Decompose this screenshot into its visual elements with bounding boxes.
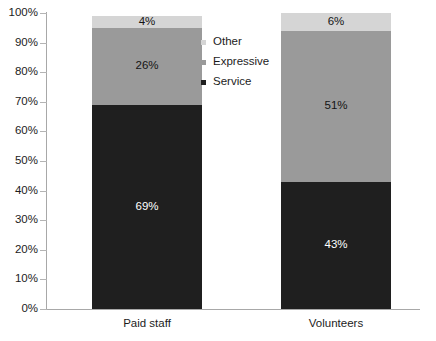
y-axis-tick-label: 0% bbox=[0, 303, 38, 315]
stacked-bar-chart: 0%10%20%30%40%50%60%70%80%90%100% 69%26%… bbox=[0, 0, 436, 341]
y-axis-tick-label-text: 20% bbox=[0, 244, 38, 256]
bar-segment-value-label: 69% bbox=[92, 201, 202, 213]
bar-segment-value-label: 43% bbox=[281, 239, 391, 251]
y-axis-tick-label: 60% bbox=[0, 125, 38, 137]
y-axis-tick-label-text: 60% bbox=[0, 125, 38, 137]
y-axis-tick-label: 40% bbox=[0, 185, 38, 197]
y-axis-tick-label-text: 70% bbox=[0, 96, 38, 108]
y-axis-tick-label-text: 100% bbox=[0, 7, 38, 19]
category-label-paid-staff: Paid staff bbox=[92, 318, 202, 330]
y-axis-tick bbox=[40, 279, 47, 280]
y-axis-tick-label: 90% bbox=[0, 37, 38, 49]
y-axis-tick-label-text: 0% bbox=[0, 303, 38, 315]
category-label-volunteers: Volunteers bbox=[281, 318, 391, 330]
bar-segment-value-label: 51% bbox=[281, 100, 391, 112]
y-axis-tick-label: 30% bbox=[0, 214, 38, 226]
bar-volunteers: 43%51%6% bbox=[281, 13, 391, 309]
bar-segment-other: 6% bbox=[281, 13, 391, 31]
bar-segment-other: 4% bbox=[92, 16, 202, 28]
y-axis-tick bbox=[40, 250, 47, 251]
legend-item-other[interactable]: Other bbox=[201, 32, 269, 52]
legend-item-service[interactable]: Service bbox=[201, 72, 269, 92]
bar-segment-service: 69% bbox=[92, 105, 202, 309]
y-axis-tick-label: 70% bbox=[0, 96, 38, 108]
legend-swatch-icon bbox=[201, 80, 206, 85]
legend-swatch-icon bbox=[201, 60, 206, 65]
y-axis-tick-label: 80% bbox=[0, 66, 38, 78]
y-axis-tick-label-text: 40% bbox=[0, 185, 38, 197]
legend-item-label: Expressive bbox=[213, 56, 269, 68]
y-axis-tick bbox=[40, 220, 47, 221]
bar-segment-value-label: 4% bbox=[92, 16, 202, 28]
legend-item-expressive[interactable]: Expressive bbox=[201, 52, 269, 72]
y-axis-tick-label: 100% bbox=[0, 7, 38, 19]
legend-item-label: Other bbox=[213, 36, 242, 48]
y-axis-tick bbox=[40, 131, 47, 132]
bar-segment-expressive: 26% bbox=[92, 28, 202, 105]
y-axis-tick-label: 50% bbox=[0, 155, 38, 167]
legend-item-label: Service bbox=[213, 76, 251, 88]
y-axis-tick bbox=[40, 309, 47, 310]
y-axis-tick-label: 10% bbox=[0, 273, 38, 285]
y-axis-tick-label-text: 10% bbox=[0, 273, 38, 285]
bar-segment-value-label: 6% bbox=[281, 16, 391, 28]
y-axis-tick bbox=[40, 43, 47, 44]
y-axis-tick bbox=[40, 72, 47, 73]
y-axis-tick bbox=[40, 191, 47, 192]
y-axis-tick-label: 20% bbox=[0, 244, 38, 256]
bar-segment-service: 43% bbox=[281, 182, 391, 309]
y-axis-tick-label-text: 80% bbox=[0, 66, 38, 78]
chart-legend: OtherExpressiveService bbox=[201, 32, 269, 92]
y-axis-tick-label-text: 50% bbox=[0, 155, 38, 167]
bar-paid-staff: 69%26%4% bbox=[92, 13, 202, 309]
x-axis-line bbox=[46, 309, 420, 310]
y-axis-tick bbox=[40, 161, 47, 162]
bar-segment-expressive: 51% bbox=[281, 31, 391, 182]
y-axis-tick bbox=[40, 13, 47, 14]
y-axis-tick bbox=[40, 102, 47, 103]
y-axis-tick-label-text: 30% bbox=[0, 214, 38, 226]
bar-segment-value-label: 26% bbox=[92, 60, 202, 72]
legend-swatch-icon bbox=[201, 40, 206, 45]
y-axis-tick-label-text: 90% bbox=[0, 37, 38, 49]
